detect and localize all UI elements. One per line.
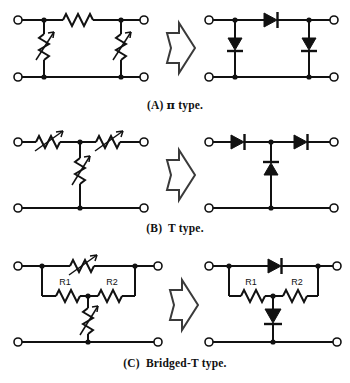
terminal-top-right	[140, 16, 148, 24]
bridged-t-resistive-circuit	[14, 255, 162, 346]
figure-row-b: (B) T type.	[0, 120, 350, 245]
node-dot-top-left	[39, 263, 44, 268]
terminal-top-left	[14, 16, 22, 24]
pi-diode-circuit	[205, 12, 338, 81]
shunt-variable-arrow-shaft	[72, 156, 90, 185]
node-dot-top-left	[226, 263, 231, 268]
node-dot-bottom-center	[85, 339, 90, 344]
bridge-diode-triangle	[268, 259, 281, 273]
series-diode-right-triangle	[294, 135, 307, 149]
r2-resistor-symbol	[98, 290, 122, 302]
node-dot-top-right	[132, 263, 137, 268]
shunt-variable-arrow-shaft	[80, 306, 98, 335]
node-dot-bottom-right	[306, 74, 311, 79]
r1-label-left: R1	[59, 277, 71, 287]
r1-resistor-symbol	[241, 290, 265, 302]
terminal-top-right	[140, 138, 148, 146]
terminal-top-left	[14, 262, 22, 270]
shunt-diode-triangle	[265, 309, 281, 323]
terminal-bottom-right	[333, 338, 341, 346]
terminal-bottom-right	[140, 204, 148, 212]
figure-row-c: R1 R2	[0, 245, 350, 383]
shunt-diode-left-triangle	[228, 38, 242, 50]
caption-c-text: type.	[202, 357, 227, 369]
terminal-bottom-left	[205, 204, 213, 212]
shunt-diode-right-triangle	[302, 38, 316, 50]
t-resistive-circuit	[14, 131, 148, 212]
terminal-bottom-left	[14, 73, 22, 81]
figure-row-a: (A)π type.	[0, 0, 350, 120]
transform-arrow-a	[167, 23, 195, 73]
r1-resistor-symbol	[56, 290, 80, 302]
shunt-right-variable-arrow-shaft	[113, 32, 131, 60]
t-diode-circuit	[205, 134, 338, 212]
terminal-top-right	[330, 138, 338, 146]
caption-a-label: (A)	[147, 99, 164, 111]
caption-c-label: (C)	[123, 357, 140, 369]
caption-c: (C) Bridged-T type.	[0, 357, 350, 369]
row-b-circuits	[0, 120, 350, 223]
terminal-bottom-right	[140, 73, 148, 81]
caption-b-label: (B)	[146, 222, 162, 234]
terminal-top-left	[205, 138, 213, 146]
node-dot-top-left	[41, 17, 46, 22]
caption-a-symbol: π	[166, 98, 175, 112]
series-diode-left-triangle	[231, 135, 244, 149]
caption-b-text: type.	[179, 222, 204, 234]
transform-arrow-c	[170, 280, 198, 330]
terminal-top-left	[205, 16, 213, 24]
r2-resistor-symbol	[283, 290, 307, 302]
node-dot-bottom-right	[118, 74, 123, 79]
node-dot-bottom-left	[41, 74, 46, 79]
caption-b: (B) T type.	[0, 222, 350, 234]
node-dot-center-top	[77, 139, 82, 144]
series-left-variable-arrow-shaft	[35, 131, 63, 151]
pi-resistive-circuit	[14, 14, 148, 81]
node-dot-center-bottom	[77, 205, 82, 210]
caption-b-symbol: T	[168, 222, 176, 234]
terminal-bottom-right	[330, 73, 338, 81]
figure-sheet: (A)π type.	[0, 0, 350, 383]
terminal-top-left	[205, 262, 213, 270]
terminal-top-right	[330, 16, 338, 24]
bridged-t-diode-circuit	[205, 258, 341, 346]
terminal-top-left	[14, 138, 22, 146]
series-right-variable-arrow-shaft	[95, 131, 123, 151]
node-dot-bottom-center	[270, 339, 275, 344]
terminal-top-right	[154, 262, 162, 270]
terminal-bottom-right	[154, 338, 162, 346]
r2-label-left: R2	[106, 277, 118, 287]
series-diode-triangle	[264, 13, 277, 27]
bridge-variable-arrow-shaft	[69, 255, 97, 275]
terminal-bottom-left	[14, 338, 22, 346]
node-dot-top-right	[315, 263, 320, 268]
node-dot-top-right	[118, 17, 123, 22]
transform-arrow-b	[167, 150, 195, 200]
series-resistor-symbol	[63, 14, 93, 26]
node-dot-mid-center	[270, 293, 275, 298]
node-dot-top-right	[306, 17, 311, 22]
node-dot-top-left	[232, 17, 237, 22]
node-dot-bottom-left	[232, 74, 237, 79]
r2-label-right: R2	[291, 277, 303, 287]
row-c-circuits: R1 R2	[0, 245, 350, 357]
shunt-diode-triangle	[264, 163, 278, 175]
r1-label-right: R1	[245, 277, 257, 287]
caption-c-symbol: Bridged-T	[146, 357, 199, 369]
terminal-bottom-left	[205, 73, 213, 81]
node-dot-center-bottom	[268, 205, 273, 210]
terminal-bottom-left	[14, 204, 22, 212]
node-dot-mid-center	[85, 293, 90, 298]
shunt-left-variable-arrow-shaft	[36, 32, 54, 60]
terminal-top-right	[333, 262, 341, 270]
caption-a: (A)π type.	[0, 98, 350, 112]
caption-a-text: type.	[178, 99, 203, 111]
terminal-bottom-left	[205, 338, 213, 346]
terminal-bottom-right	[330, 204, 338, 212]
row-a-circuits	[0, 0, 350, 100]
node-dot-center-top	[268, 139, 273, 144]
